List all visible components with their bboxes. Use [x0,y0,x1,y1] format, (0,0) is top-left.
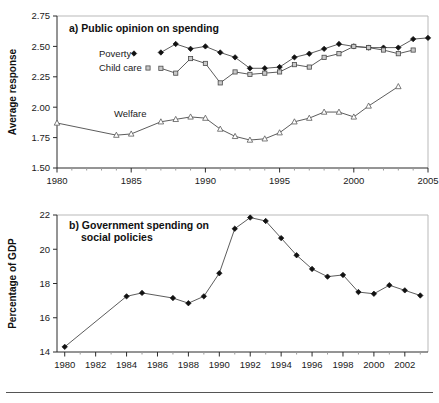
data-point [203,61,207,65]
series-label-marker [131,51,136,56]
series-label-child-care: Child care [99,62,142,73]
data-point [307,51,312,56]
y-tick-label: 2.25 [32,71,51,82]
y-tick-label: 2.50 [32,41,51,52]
series-line [161,46,413,82]
data-point [411,48,415,52]
data-point [322,55,326,59]
y-tick-label: 2.75 [32,10,51,21]
data-point [277,64,282,69]
x-tick-label: 2005 [417,175,438,186]
series-line [57,87,398,141]
data-point [174,71,178,75]
y-tick-label: 18 [39,278,50,289]
x-tick-label: 2000 [363,359,384,370]
data-point [217,271,222,276]
figure-container: 1.501.752.002.252.502.751980198519901995… [0,0,439,403]
data-point [336,41,341,46]
x-tick-label: 1990 [195,175,216,186]
data-point [337,52,341,56]
data-point [233,70,237,74]
x-tick-label: 1980 [46,175,67,186]
figure-footer-rule [6,392,433,393]
series-child-care [159,44,415,85]
y-axis-title: Average response [7,48,18,135]
data-point [321,46,326,51]
data-point [292,63,296,67]
x-tick-label: 1980 [54,359,75,370]
y-tick-label: 1.50 [32,162,51,173]
data-point [188,114,194,119]
data-point [292,55,297,60]
data-point [186,300,191,305]
data-point [170,295,175,300]
data-point [352,44,356,48]
x-tick-label: 1988 [178,359,199,370]
data-point [325,274,330,279]
x-tick-label: 1998 [332,359,353,370]
x-tick-label: 1985 [121,175,142,186]
x-tick-label: 1992 [240,359,261,370]
data-point [402,288,407,293]
y-axis-title: Percentage of GDP [7,238,18,329]
data-point [366,103,372,108]
data-point [217,126,223,131]
data-point [248,72,252,76]
data-point [387,283,392,288]
data-point [396,45,401,50]
data-point [262,66,267,71]
data-point [218,50,223,55]
data-point [418,293,423,298]
x-tick-label: 1986 [147,359,168,370]
y-tick-label: 1.75 [32,132,51,143]
series-label-poverty: Poverty [99,48,131,59]
data-point [371,291,376,296]
data-point [201,294,206,299]
chart-panel-b: 1416182022198019821984198619881990199219… [0,197,439,383]
data-point [367,46,371,50]
x-tick-label: 1990 [209,359,230,370]
data-point [278,70,282,74]
y-tick-label: 20 [39,244,50,255]
chart-panel-a: 1.501.752.002.252.502.751980198519901995… [0,0,439,197]
data-point [218,81,222,85]
data-point [139,290,144,295]
data-point [203,44,208,49]
x-tick-label: 1995 [269,175,290,186]
x-tick-label: 1996 [301,359,322,370]
y-tick-label: 22 [39,209,50,220]
data-point [410,36,415,41]
data-point [173,41,178,46]
series-label-welfare: Welfare [114,108,147,119]
panel-b-title-line1: b) Government spending on [69,219,209,231]
data-point [188,56,192,60]
x-tick-label: 1982 [85,359,106,370]
data-point [277,130,283,135]
data-point [188,46,193,51]
x-tick-label: 2002 [394,359,415,370]
data-point [396,52,400,56]
panel-a-title: a) Public opinion on spending [69,22,219,34]
data-point [263,71,267,75]
chart-a-canvas: 1.501.752.002.252.502.751980198519901995… [0,0,439,197]
data-point [54,120,60,125]
data-point [159,66,163,70]
data-point [381,48,385,52]
chart-b-canvas: 1416182022198019821984198619881990199219… [0,197,439,383]
y-tick-label: 2.00 [32,102,51,113]
data-point [425,35,430,40]
data-point [232,133,238,138]
y-tick-label: 14 [39,346,50,357]
data-point [396,84,402,89]
data-point [158,50,163,55]
series-welfare [54,84,401,143]
panel-b-title-line2: social policies [81,231,153,243]
x-tick-label: 1994 [271,359,292,370]
x-tick-label: 2000 [343,175,364,186]
x-tick-label: 1984 [116,359,137,370]
data-point [307,65,311,69]
series-label-marker [146,66,150,70]
y-tick-label: 16 [39,312,50,323]
